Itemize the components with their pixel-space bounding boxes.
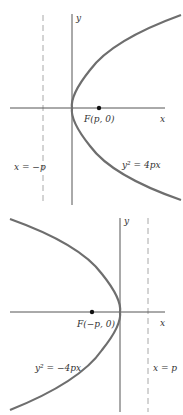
directrix-label: x = −p — [14, 162, 46, 172]
focus-label: F(−p, 0) — [76, 319, 116, 329]
x-axis-label: x — [160, 318, 165, 328]
focus-point — [97, 106, 101, 110]
y-axis-label: y — [123, 216, 130, 226]
figure-parabola-left: y x F(−p, 0) y² = −4px x = p — [10, 216, 177, 412]
directrix-label: x = p — [153, 363, 177, 373]
equation-label: y² = −4px — [34, 363, 81, 373]
parabola-curve — [10, 219, 120, 410]
y-axis-label: y — [75, 13, 82, 23]
figure-parabola-right: y x F(p, 0) x = −p y² = 4px — [10, 13, 181, 205]
x-axis-label: x — [160, 114, 165, 124]
equation-label: y² = 4px — [121, 160, 161, 170]
parabola-diagrams: y x F(p, 0) x = −p y² = 4px y x F(−p, 0)… — [0, 0, 183, 415]
focus-label: F(p, 0) — [83, 114, 115, 124]
focus-point — [90, 310, 94, 314]
